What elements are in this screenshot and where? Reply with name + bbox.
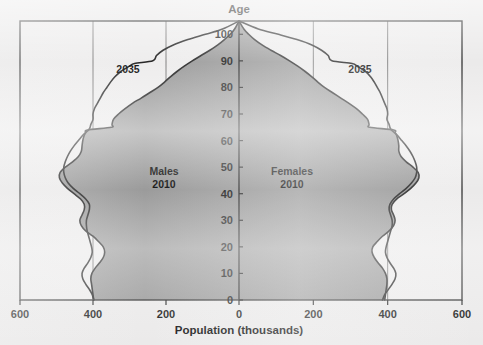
pyramid-svg-canvas: 0102030405060708090100 60040020002004006…	[0, 0, 483, 345]
y-tick-label-40: 40	[221, 188, 233, 200]
y-tick-label-0: 0	[227, 294, 233, 306]
annotation-males-label: Males	[149, 165, 178, 177]
x-tick-label-2: 200	[157, 308, 175, 320]
annotation-males-year: 2010	[152, 178, 176, 190]
y-tick-label-100: 100	[215, 28, 233, 40]
annotation-2035-left: 2035	[116, 63, 140, 75]
y-tick-label-90: 90	[221, 55, 233, 67]
x-tick-label-6: 600	[453, 308, 471, 320]
y-tick-label-30: 30	[221, 214, 233, 226]
annotation-females-label: Females	[271, 165, 313, 177]
x-axis-title: Population (thousands)	[175, 324, 304, 336]
annotation-2035-right: 2035	[348, 63, 372, 75]
y-tick-label-70: 70	[221, 108, 233, 120]
x-tick-label-4: 200	[304, 308, 322, 320]
y-tick-label-20: 20	[221, 241, 233, 253]
population-pyramid-chart: 0102030405060708090100 60040020002004006…	[0, 0, 483, 345]
x-axis: 6004002000200400600	[11, 300, 471, 320]
y-tick-label-50: 50	[221, 161, 233, 173]
y-tick-label-60: 60	[221, 135, 233, 147]
x-tick-label-1: 400	[84, 308, 102, 320]
y-axis-title: Age	[228, 3, 250, 15]
annotation-females-year: 2010	[280, 178, 304, 190]
y-tick-label-10: 10	[221, 267, 233, 279]
x-tick-label-0: 600	[11, 308, 29, 320]
x-tick-label-3: 0	[236, 308, 242, 320]
y-tick-label-80: 80	[221, 81, 233, 93]
x-tick-label-5: 400	[378, 308, 396, 320]
